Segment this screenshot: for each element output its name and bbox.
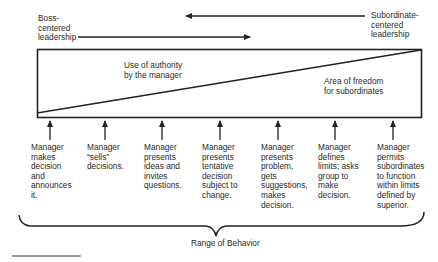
behavior-4: Managerpresentstentativedecisionsubject … bbox=[202, 143, 262, 201]
behavior-3: Managerpresentsideas andinvitesquestions… bbox=[144, 143, 204, 191]
behavior-6: Managerdefineslimits; asksgroup tomakede… bbox=[318, 143, 378, 201]
authority-region-label: Use of authority by the manager bbox=[124, 61, 182, 80]
behavior-text-line: decision. bbox=[318, 191, 378, 201]
behavior-2: Manager“sells”decisions. bbox=[87, 143, 147, 172]
behavior-1: Managermakesdecisionandannouncesit. bbox=[31, 143, 91, 201]
behavior-5: Managerpresentsproblem,getssuggestions,m… bbox=[261, 143, 321, 210]
subordinate-centered-label: Subordinate- centered leadership bbox=[371, 11, 419, 40]
behavior-text-line: for subordinates bbox=[324, 87, 384, 97]
freedom-region-label: Area of freedom for subordinates bbox=[324, 77, 384, 96]
behavior-text-line: decision. bbox=[261, 201, 321, 211]
behavior-text-line: superior. bbox=[377, 201, 437, 211]
range-brace bbox=[19, 212, 424, 236]
behavior-text-line: by the manager bbox=[124, 71, 182, 81]
behavior-arrows bbox=[50, 121, 393, 140]
behavior-7: Managerpermitssubordinatesto functionwit… bbox=[377, 143, 437, 210]
range-of-behavior-label: Range of Behavior bbox=[191, 239, 260, 249]
behavior-text-line: change. bbox=[202, 191, 262, 201]
behavior-text-line: leadership bbox=[38, 33, 76, 43]
boss-centered-label: Boss- centered leadership bbox=[38, 14, 76, 43]
behavior-text-line: leadership bbox=[371, 30, 419, 40]
behavior-text-line: it. bbox=[31, 191, 91, 201]
behavior-text-line: announces bbox=[31, 181, 91, 191]
behavior-text-line: questions. bbox=[144, 181, 204, 191]
behavior-text-line: decisions. bbox=[87, 162, 147, 172]
